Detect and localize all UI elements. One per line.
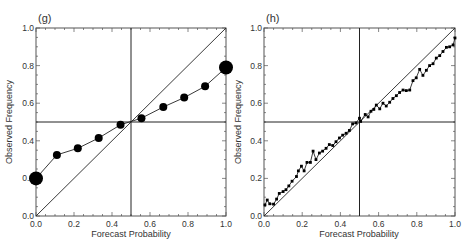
data-point	[422, 74, 425, 77]
y-tick-label: 0.4	[250, 136, 262, 146]
data-point	[312, 150, 315, 153]
data-point	[321, 150, 324, 153]
data-point	[272, 203, 275, 206]
y-tick-label: 1.0	[250, 23, 262, 33]
data-point	[201, 82, 209, 90]
x-tick-label: 0.6	[144, 219, 156, 229]
data-point	[328, 143, 331, 146]
data-point	[137, 114, 145, 122]
data-point	[300, 165, 303, 168]
data-point	[318, 152, 321, 155]
data-point	[219, 60, 233, 74]
panel-label: (h)	[266, 12, 279, 24]
x-axis-label: Forecast Probability	[91, 229, 171, 239]
data-point	[372, 108, 375, 111]
data-point	[297, 169, 300, 172]
y-axis-label: Observed Frequency	[4, 79, 14, 164]
data-point	[355, 122, 358, 125]
x-tick-label: 0.8	[182, 219, 194, 229]
x-tick-label: 0.2	[68, 219, 80, 229]
y-tick-label: 0.8	[250, 61, 262, 71]
data-point	[180, 94, 188, 102]
data-point	[348, 129, 351, 132]
data-point	[438, 54, 441, 57]
data-point	[454, 37, 457, 40]
data-point	[359, 120, 362, 123]
data-point	[418, 68, 421, 71]
panel-label: (g)	[38, 12, 51, 24]
y-axis-label: Observed Frequency	[233, 79, 243, 164]
data-point	[309, 161, 312, 164]
data-point	[264, 204, 267, 207]
data-point	[74, 144, 82, 152]
data-point	[364, 113, 367, 116]
data-point	[351, 122, 354, 125]
data-point	[432, 62, 435, 65]
y-tick-label: 0.4	[22, 136, 34, 146]
data-point	[306, 161, 309, 164]
data-point	[287, 185, 290, 188]
data-point	[395, 94, 398, 97]
data-point	[53, 151, 61, 159]
data-point	[435, 57, 438, 60]
data-point	[278, 192, 281, 195]
data-point	[382, 102, 385, 105]
data-point	[448, 45, 451, 48]
data-point	[159, 103, 167, 111]
data-point	[338, 137, 341, 140]
data-point	[385, 105, 388, 108]
data-point	[408, 89, 411, 92]
data-point	[341, 134, 344, 137]
data-point	[415, 76, 418, 79]
data-point	[398, 91, 401, 94]
x-tick-label: 0.4	[334, 219, 346, 229]
data-point	[268, 202, 271, 205]
data-point	[392, 97, 395, 100]
data-point	[358, 117, 361, 120]
y-tick-label: 0.6	[250, 98, 262, 108]
panel-h: (h) 0.00.20.40.60.81.00.00.20.40.60.81.0…	[233, 12, 461, 239]
data-point	[325, 147, 328, 150]
data-point	[295, 175, 298, 178]
data-point	[445, 46, 448, 49]
data-point	[345, 132, 348, 135]
figure: (g) 0.00.20.40.60.81.00.00.20.40.60.81.0…	[0, 0, 467, 250]
data-point	[428, 64, 431, 67]
data-point	[452, 44, 455, 47]
data-point	[95, 134, 103, 142]
y-tick-label: 0.0	[22, 211, 34, 221]
data-point	[378, 107, 381, 110]
x-axis-label: Forecast Probability	[319, 229, 399, 239]
data-point	[442, 50, 445, 53]
x-tick-label: 0.2	[296, 219, 308, 229]
data-point	[405, 89, 408, 92]
y-tick-label: 0.8	[22, 61, 34, 71]
data-point	[291, 180, 294, 183]
data-point	[282, 190, 285, 193]
data-point	[412, 79, 415, 82]
data-point	[266, 199, 269, 202]
data-point	[370, 110, 373, 113]
y-tick-label: 0.6	[22, 98, 34, 108]
x-tick-label: 1.0	[220, 219, 232, 229]
data-point	[375, 104, 378, 107]
plot-area: 0.00.20.40.60.81.00.00.20.40.60.81.0	[22, 23, 233, 229]
data-point	[402, 89, 405, 92]
x-tick-label: 0.6	[373, 219, 385, 229]
data-point	[331, 144, 334, 147]
y-tick-label: 0.2	[250, 173, 262, 183]
data-point	[285, 188, 288, 191]
panel-g: (g) 0.00.20.40.60.81.00.00.20.40.60.81.0…	[4, 12, 233, 239]
data-point	[29, 171, 43, 185]
x-tick-label: 0.4	[106, 219, 118, 229]
data-point	[367, 116, 370, 119]
data-point	[117, 121, 125, 129]
data-point	[425, 69, 428, 72]
data-point	[275, 198, 278, 201]
x-tick-label: 1.0	[449, 219, 461, 229]
data-point	[388, 101, 391, 104]
x-tick-label: 0.8	[411, 219, 423, 229]
y-tick-label: 0.0	[250, 211, 262, 221]
plot-area: 0.00.20.40.60.81.00.00.20.40.60.81.0	[250, 23, 461, 229]
data-point	[315, 158, 318, 161]
